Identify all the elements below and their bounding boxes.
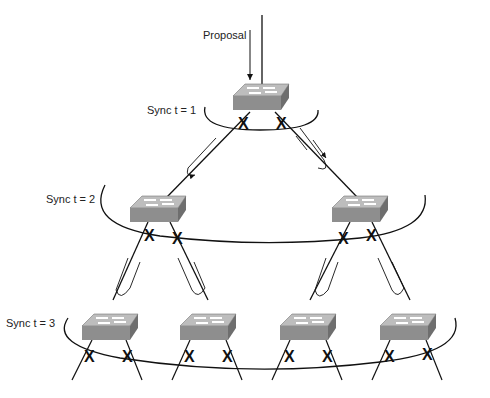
svg-text:X: X xyxy=(322,348,333,365)
svg-text:X: X xyxy=(366,227,377,244)
sync1-arc xyxy=(205,107,318,130)
sync3-label: Sync t = 3 xyxy=(6,317,55,329)
l2-left-switch-icon xyxy=(130,196,186,222)
proposal-label: Proposal xyxy=(203,29,246,41)
sync1-label: Sync t = 1 xyxy=(147,104,196,116)
svg-text:X: X xyxy=(338,230,349,247)
svg-text:X: X xyxy=(422,346,433,363)
sync2-label: Sync t = 2 xyxy=(46,193,95,205)
l3-switch-2-icon xyxy=(180,314,236,340)
l3-switch-4-icon xyxy=(380,314,436,340)
svg-text:X: X xyxy=(144,227,155,244)
l2-right-switch-icon xyxy=(332,196,388,222)
l3-switch-3-icon xyxy=(280,314,336,340)
svg-text:X: X xyxy=(122,348,133,365)
svg-text:X: X xyxy=(172,230,183,247)
svg-text:X: X xyxy=(222,348,233,365)
svg-text:X: X xyxy=(184,348,195,365)
svg-text:X: X xyxy=(84,348,95,365)
svg-text:X: X xyxy=(276,115,287,132)
l3-switch-1-icon xyxy=(82,314,138,340)
svg-text:X: X xyxy=(384,348,395,365)
root-switch-icon xyxy=(233,84,289,110)
sync-diagram: Proposal Sync t = 1 X X Sync t = 2 X X X… xyxy=(0,0,490,398)
svg-text:X: X xyxy=(284,348,295,365)
svg-text:X: X xyxy=(238,115,249,132)
